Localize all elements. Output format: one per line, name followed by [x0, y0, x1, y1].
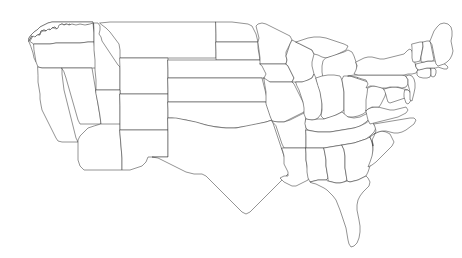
state-new-mexico[interactable] [120, 130, 168, 170]
us-states-outline-map [0, 0, 462, 258]
state-colorado[interactable] [120, 94, 168, 130]
state-west-virginia[interactable] [366, 86, 386, 111]
state-nebraska[interactable] [168, 60, 268, 78]
state-arizona[interactable] [78, 124, 122, 170]
state-south-dakota[interactable] [216, 42, 260, 60]
state-florida[interactable] [310, 176, 370, 247]
state-rhode-island[interactable] [431, 68, 436, 77]
us-map-svg [0, 0, 462, 258]
state-kansas[interactable] [168, 78, 268, 102]
state-new-york[interactable] [354, 49, 418, 75]
state-wyoming[interactable] [120, 58, 168, 94]
state-montana[interactable] [100, 22, 216, 58]
state-north-dakota[interactable] [216, 22, 258, 42]
state-oregon[interactable] [34, 42, 96, 68]
states-layer [29, 22, 453, 247]
state-texas[interactable] [152, 118, 290, 214]
